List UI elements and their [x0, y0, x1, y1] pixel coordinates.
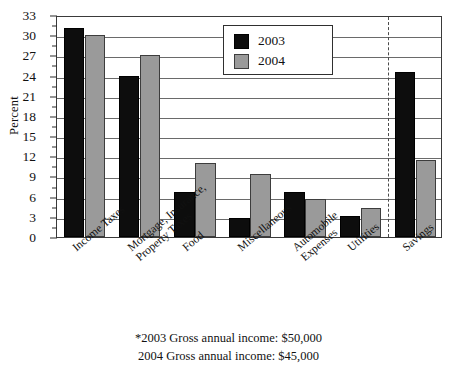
gridline — [57, 138, 441, 139]
y-axis-tick-minor — [52, 127, 57, 128]
y-axis-tick-minor — [52, 187, 57, 188]
y-axis-tick-minor — [52, 66, 57, 67]
savings-separator-line — [388, 17, 389, 237]
y-axis-tick-label: 18 — [6, 110, 36, 124]
footnotes: *2003 Gross annual income: $50,000 2004 … — [0, 330, 457, 365]
legend: 2003 2004 — [223, 25, 333, 75]
y-axis-tick-label: 9 — [6, 171, 36, 185]
gridline — [57, 118, 441, 119]
y-axis-tick-minor — [52, 147, 57, 148]
bar-2003 — [395, 72, 416, 237]
y-axis-tick-label: 27 — [6, 50, 36, 64]
y-axis-tick-minor — [52, 227, 57, 228]
y-axis-tick-major — [50, 96, 57, 97]
y-axis-tick-label: 6 — [6, 191, 36, 205]
y-axis-tick-minor — [52, 46, 57, 47]
y-axis-tick-minor — [52, 86, 57, 87]
y-axis-tick-label: 3 — [6, 211, 36, 225]
legend-swatch-2003-icon — [234, 34, 249, 49]
legend-item-2004: 2004 — [234, 51, 332, 71]
bar-chart: Percent 03691215182124273033 Income Taxe… — [0, 0, 457, 365]
gridline — [57, 199, 441, 200]
y-axis-tick-major — [50, 197, 57, 198]
footnote-line-1: *2003 Gross annual income: $50,000 — [0, 330, 457, 348]
y-axis-tick-major — [50, 177, 57, 178]
legend-swatch-2004-icon — [234, 54, 249, 69]
y-axis-tick-label: 30 — [6, 29, 36, 43]
y-axis-tick-label: 24 — [6, 70, 36, 84]
bar-2004 — [140, 55, 161, 237]
y-axis-tick-minor — [52, 207, 57, 208]
gridline — [57, 178, 441, 179]
y-axis-tick-minor — [52, 26, 57, 27]
bar-2003 — [64, 28, 85, 237]
y-axis-tick-major — [50, 76, 57, 77]
y-axis-tick-major — [50, 217, 57, 218]
legend-label-2003: 2003 — [258, 33, 285, 49]
footnote-line-2: 2004 Gross annual income: $45,000 — [0, 348, 457, 365]
y-axis-tick-label: 15 — [6, 130, 36, 144]
y-axis-tick-major — [50, 157, 57, 158]
y-axis-tick-major — [50, 116, 57, 117]
bar-2004 — [85, 35, 106, 237]
y-axis-tick-major — [50, 137, 57, 138]
gridline — [57, 98, 441, 99]
legend-item-2003: 2003 — [234, 31, 332, 51]
y-axis-tick-minor — [52, 167, 57, 168]
gridline — [57, 78, 441, 79]
y-axis-tick-major — [50, 36, 57, 37]
y-axis-tick-minor — [52, 106, 57, 107]
y-axis-tick-major — [50, 238, 57, 239]
legend-label-2004: 2004 — [258, 53, 285, 69]
gridline — [57, 158, 441, 159]
y-axis-tick-label: 12 — [6, 151, 36, 165]
y-axis-tick-major — [50, 16, 57, 17]
y-axis-tick-label: 0 — [6, 231, 36, 245]
y-axis-tick-label: 21 — [6, 90, 36, 104]
y-axis-tick-major — [50, 56, 57, 57]
y-axis-tick-label: 33 — [6, 9, 36, 23]
